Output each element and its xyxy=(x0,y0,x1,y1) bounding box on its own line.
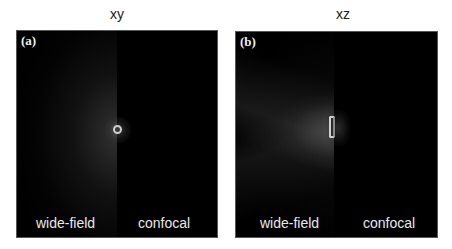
panel-a-widefield-label: wide-field xyxy=(36,215,95,231)
panel-b-widefield-glow xyxy=(236,32,334,237)
panel-a-confocal-label: confocal xyxy=(138,215,190,231)
panel-b-image: (b) wide-field confocal xyxy=(235,31,438,238)
panel-a-image: (a) wide-field confocal xyxy=(16,30,218,238)
panel-b-title: xz xyxy=(313,6,373,22)
panel-a-psf-ring xyxy=(113,125,122,134)
panel-b-psf-spot xyxy=(329,116,335,138)
panel-b-widefield-label: wide-field xyxy=(260,215,319,231)
panel-b-confocal-label: confocal xyxy=(363,215,415,231)
panel-a-widefield-glow xyxy=(17,31,117,237)
panel-b-tag: (b) xyxy=(240,34,256,50)
panel-a-tag: (a) xyxy=(21,33,36,49)
panel-a-title: xy xyxy=(87,6,147,22)
